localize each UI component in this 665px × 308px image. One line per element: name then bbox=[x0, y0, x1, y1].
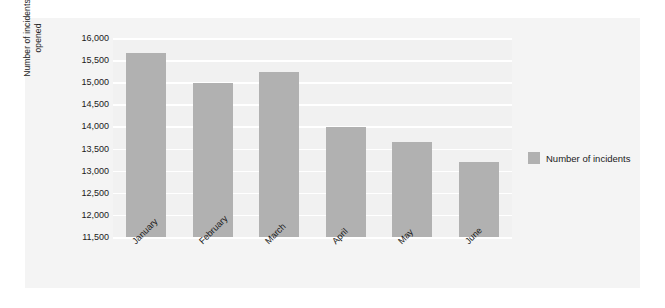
chart-legend: Number of incidents bbox=[528, 152, 630, 164]
y-tick-label: 13,000 bbox=[61, 166, 109, 176]
gridline bbox=[113, 193, 512, 195]
y-tick-label: 14,500 bbox=[61, 99, 109, 109]
gridline bbox=[113, 104, 512, 106]
gridline bbox=[113, 215, 512, 217]
bar-february[interactable] bbox=[193, 83, 233, 237]
gridline bbox=[113, 149, 512, 151]
y-tick-label: 12,000 bbox=[61, 210, 109, 220]
gridline bbox=[113, 171, 512, 173]
y-tick-label: 12,500 bbox=[61, 188, 109, 198]
bar-may[interactable] bbox=[392, 142, 432, 237]
gridline bbox=[113, 60, 512, 62]
gridline bbox=[113, 126, 512, 128]
legend-label-number-of-incidents: Number of incidents bbox=[546, 153, 630, 164]
y-tick-label: 11,500 bbox=[61, 232, 109, 242]
y-tick-label: 16,000 bbox=[61, 33, 109, 43]
plot-area bbox=[113, 38, 512, 237]
y-axis-tick-labels: 16,00015,50015,00014,50014,00013,50013,0… bbox=[57, 38, 109, 237]
y-tick-label: 13,500 bbox=[61, 144, 109, 154]
gridline bbox=[113, 38, 512, 40]
y-tick-label: 15,000 bbox=[61, 77, 109, 87]
x-axis-tick-labels: JanuaryFebruaryMarchAprilMayJune bbox=[113, 239, 512, 285]
y-tick-label: 15,500 bbox=[61, 55, 109, 65]
gridline bbox=[113, 82, 512, 84]
bar-april[interactable] bbox=[326, 127, 366, 237]
bar-march[interactable] bbox=[259, 72, 299, 237]
bar-june[interactable] bbox=[459, 162, 499, 237]
y-tick-label: 14,000 bbox=[61, 121, 109, 131]
bar-january[interactable] bbox=[126, 53, 166, 237]
legend-swatch-number-of-incidents bbox=[528, 152, 540, 164]
